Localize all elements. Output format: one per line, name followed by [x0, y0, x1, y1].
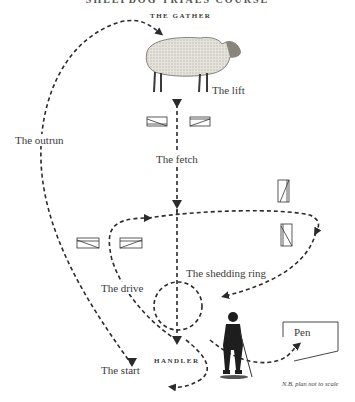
lift-arrow-icon [172, 99, 182, 108]
gate-icon [147, 117, 167, 126]
handler-illustration [220, 312, 252, 379]
ring-arrow-icon [172, 336, 182, 345]
cross-drive-path [148, 211, 318, 232]
outrun-path [41, 20, 160, 365]
shedding-ring [154, 282, 202, 330]
label-fetch: The fetch [156, 153, 198, 165]
gate-icon [77, 238, 99, 248]
label-handler: HANDLER [154, 357, 200, 365]
gate-icon [281, 224, 292, 246]
fetch-arrow-icon [172, 200, 182, 209]
label-outrun: The outrun [15, 134, 64, 146]
label-drive: The drive [101, 282, 143, 294]
label-shedding-ring: The shedding ring [186, 267, 266, 279]
label-start: The start [101, 364, 140, 376]
label-gather: THE GATHER [150, 12, 211, 20]
course-plan [0, 0, 355, 402]
scale-note: N.B. plan not to scale [282, 380, 338, 387]
return-path [225, 232, 316, 296]
label-pen: Pen [294, 326, 311, 338]
pen-path [210, 340, 298, 363]
drive-path [109, 218, 177, 340]
label-lift: The lift [212, 84, 245, 96]
gate-icon [190, 117, 210, 126]
gate-icon [120, 238, 142, 248]
gate-icon [278, 180, 289, 202]
